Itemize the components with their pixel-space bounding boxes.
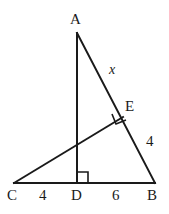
right-angle-mark-d bbox=[77, 172, 88, 183]
label-segment-db: 6 bbox=[112, 188, 120, 203]
segment-ab bbox=[77, 33, 155, 183]
label-vertex-a: A bbox=[70, 12, 81, 27]
label-vertex-c: C bbox=[7, 188, 17, 203]
label-vertex-b: B bbox=[147, 188, 157, 203]
label-point-e: E bbox=[125, 99, 134, 114]
label-vertex-d: D bbox=[71, 188, 82, 203]
label-segment-ae: x bbox=[109, 62, 115, 77]
label-segment-eb: 4 bbox=[146, 134, 154, 149]
geometry-canvas bbox=[0, 0, 169, 214]
segment-ce bbox=[14, 117, 123, 183]
geometry-figure: A E x 4 C 4 D 6 B bbox=[0, 0, 169, 214]
label-segment-cd: 4 bbox=[39, 188, 47, 203]
